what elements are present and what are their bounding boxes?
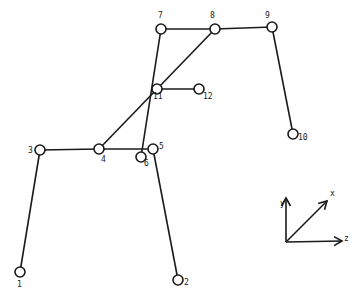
- node-label-7: 7: [158, 11, 163, 20]
- node-8-circle-icon: [210, 24, 220, 34]
- node-3-circle-icon: [35, 145, 45, 155]
- node-4-circle-icon: [94, 144, 104, 154]
- x-axis-line: [286, 201, 327, 242]
- node-label-12: 12: [203, 92, 213, 101]
- node-label-11: 11: [153, 92, 163, 101]
- node-label-5: 5: [159, 142, 164, 151]
- coordinate-axes: yxz: [280, 189, 349, 246]
- node-label-3: 3: [28, 146, 33, 155]
- node-label-2: 2: [184, 278, 189, 287]
- z-axis-line: [286, 241, 342, 242]
- node-label-9: 9: [265, 11, 270, 20]
- node-10-circle-icon: [288, 129, 298, 139]
- node-label-4: 4: [101, 155, 106, 164]
- node-label-6: 6: [144, 159, 149, 168]
- node-7-circle-icon: [156, 24, 166, 34]
- y-axis-label: y: [280, 199, 285, 208]
- edge-3-4: [40, 149, 99, 150]
- x-axis-label: x: [330, 189, 335, 198]
- frame-diagram: 123456789101112 yxz: [0, 0, 362, 300]
- node-9-circle-icon: [267, 22, 277, 32]
- z-axis-label: z: [344, 234, 349, 243]
- edge-8-9: [215, 27, 272, 29]
- edge-9-10: [272, 27, 293, 134]
- edge-1-3: [20, 150, 40, 272]
- node-5-circle-icon: [148, 144, 158, 154]
- node-label-10: 10: [298, 133, 308, 142]
- node-label-1: 1: [17, 280, 22, 289]
- node-label-8: 8: [210, 11, 215, 20]
- node-2-circle-icon: [173, 275, 183, 285]
- node-1-circle-icon: [15, 267, 25, 277]
- edge-5-2: [153, 149, 178, 280]
